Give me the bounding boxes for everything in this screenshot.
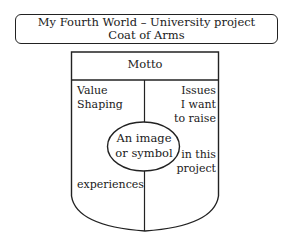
left-top-line: Value — [77, 84, 123, 98]
motto-label: Motto — [72, 57, 218, 71]
right-top-line: Issues — [174, 84, 216, 98]
left-top-line: Shaping — [77, 98, 123, 112]
left-bottom-text: experiences — [77, 178, 144, 192]
right-top-line: to raise — [174, 112, 216, 126]
right-top-line: I want — [174, 98, 216, 112]
right-top-text: Issues I want to raise — [174, 84, 216, 126]
right-bottom-text: in this project — [177, 148, 216, 176]
left-top-text: Value Shaping — [77, 84, 123, 112]
center-line: or symbol — [108, 146, 180, 161]
right-bottom-line: project — [177, 162, 216, 176]
center-text: An image or symbol — [108, 131, 180, 161]
center-line: An image — [108, 131, 180, 146]
shield-outline — [0, 0, 292, 245]
right-bottom-line: in this — [177, 148, 216, 162]
